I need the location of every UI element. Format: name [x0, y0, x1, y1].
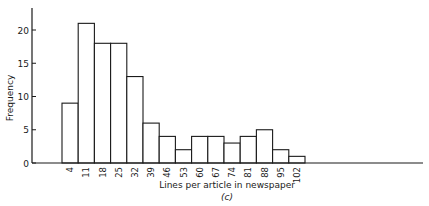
x-tick-label: 60 — [195, 167, 205, 178]
x-tick-label: 95 — [276, 167, 286, 178]
x-tick-label: 11 — [81, 167, 91, 178]
histogram-bar — [273, 150, 289, 163]
histogram-bar — [127, 77, 143, 163]
x-tick-label: 88 — [260, 167, 270, 178]
figure-caption: (c) — [221, 192, 233, 202]
histogram-bar — [289, 156, 305, 163]
histogram-chart: 05101520 411182532394653606774818895102 … — [0, 0, 429, 206]
x-tick-label: 32 — [130, 167, 140, 178]
y-tick-label: 5 — [23, 125, 29, 135]
histogram-bar — [175, 150, 191, 163]
x-tick-label: 18 — [98, 167, 108, 178]
histogram-bar — [143, 123, 159, 163]
histogram-bar — [111, 43, 127, 163]
histogram-bar — [62, 103, 78, 163]
bars — [62, 23, 305, 163]
x-tick-label: 53 — [179, 167, 189, 178]
y-axis-ticks: 05101520 — [18, 26, 36, 169]
y-tick-label: 20 — [18, 26, 30, 36]
histogram-bar — [224, 143, 240, 163]
y-tick-label: 10 — [18, 92, 30, 102]
x-tick-label: 74 — [227, 167, 237, 178]
histogram-bar — [208, 136, 224, 163]
histogram-bar — [256, 130, 272, 163]
histogram-bar — [78, 23, 94, 163]
y-tick-label: 0 — [23, 159, 29, 169]
x-tick-label: 25 — [114, 167, 124, 178]
histogram-bar — [94, 43, 110, 163]
x-tick-label: 39 — [146, 167, 156, 178]
x-tick-label: 46 — [162, 167, 172, 178]
histogram-bar — [240, 136, 256, 163]
y-axis-label: Frequency — [5, 74, 15, 121]
x-tick-label: 67 — [211, 167, 221, 178]
x-tick-label: 4 — [65, 167, 75, 172]
x-tick-label: 81 — [243, 167, 253, 178]
histogram-bar — [159, 136, 175, 163]
y-tick-label: 15 — [18, 59, 29, 69]
histogram-bar — [192, 136, 208, 163]
x-axis-label: Lines per article in newspaper — [159, 180, 295, 190]
